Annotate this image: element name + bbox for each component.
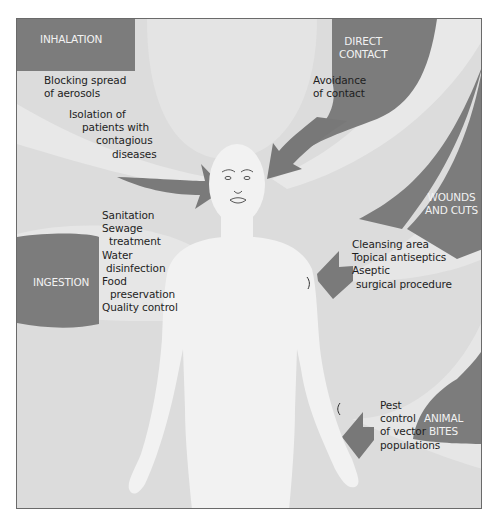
inhalation-label-line: INHALATION xyxy=(40,33,102,46)
measure-text: Pest xyxy=(380,399,440,412)
center-band xyxy=(147,19,317,159)
direct-contact-label-line: CONTACT xyxy=(339,48,387,61)
measure-text: Cleansing area xyxy=(352,238,452,251)
measure-text: patients with xyxy=(69,121,157,134)
wounds-label-line: WOUNDS xyxy=(425,191,478,204)
bite-mark xyxy=(338,403,340,415)
measure-text: Water xyxy=(102,249,178,262)
direct-contact-label: DIRECT CONTACT xyxy=(339,35,387,61)
measure-text: diseases xyxy=(69,148,157,161)
measure-text: control xyxy=(380,412,440,425)
wounds-and-cuts-label: WOUNDS AND CUTS xyxy=(425,191,478,217)
wounds-measures: Cleansing area Topical antiseptics Asept… xyxy=(352,238,452,291)
measure-text: of aerosols xyxy=(44,87,126,100)
measure-text: contagious xyxy=(69,134,157,147)
ingestion-measures: Sanitation Sewage treatment Water disinf… xyxy=(102,209,178,315)
measure-text: Topical antiseptics xyxy=(352,251,452,264)
ingestion-label-line: INGESTION xyxy=(33,276,89,289)
measure-text: Avoidance xyxy=(313,74,366,87)
measure-text: Blocking spread xyxy=(44,74,126,87)
direct-contact-label-line: DIRECT xyxy=(339,35,387,48)
measure-text: disinfection xyxy=(102,262,178,275)
measure-text: Aseptic xyxy=(352,264,452,277)
inhalation-label: INHALATION xyxy=(40,33,102,46)
wounds-arrow xyxy=(317,251,353,299)
wounds-label-line: AND CUTS xyxy=(425,204,478,217)
ingestion-label: INGESTION xyxy=(33,276,89,289)
measure-text: of contact xyxy=(313,87,366,100)
measure-text: populations xyxy=(380,439,440,452)
direct-contact-measures: Avoidance of contact xyxy=(313,74,366,100)
inhalation-measures: Blocking spread of aerosols xyxy=(44,74,126,100)
measure-text: Sanitation xyxy=(102,209,178,222)
measure-text: Sewage xyxy=(102,222,178,235)
measure-text: surgical procedure xyxy=(352,278,452,291)
measure-text: treatment xyxy=(102,235,178,248)
measure-text: Quality control xyxy=(102,301,178,314)
measure-text: of vector xyxy=(380,425,440,438)
inhalation-measures-isolation: Isolation of patients with contagious di… xyxy=(69,108,157,161)
animal-bites-measures: Pest control of vector populations xyxy=(380,399,440,452)
measure-text: Isolation of xyxy=(69,108,157,121)
diagram-frame: INHALATION DIRECT CONTACT WOUNDS AND CUT… xyxy=(16,18,482,509)
measure-text: Food xyxy=(102,275,178,288)
measure-text: preservation xyxy=(102,288,178,301)
